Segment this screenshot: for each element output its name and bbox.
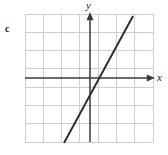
figure-part-label: c xyxy=(5,24,9,34)
x-axis-label: x xyxy=(157,72,162,83)
coordinate-plane xyxy=(25,14,153,142)
figure-panel: c xyxy=(0,0,168,155)
y-axis-label: y xyxy=(86,0,91,11)
plotted-line xyxy=(25,14,153,142)
